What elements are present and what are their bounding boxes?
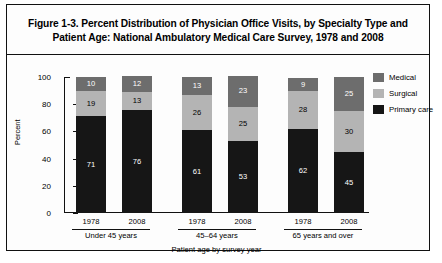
stacked-bar[interactable]: 25 30 45 [334,77,364,213]
stacked-bar[interactable]: 12 13 76 [122,76,152,213]
bar-segment-primary: 61 [182,130,212,213]
x-axis-labels: 1978 2008 1978 2008 1978 2008 Under 45 y… [64,215,369,263]
bar-segment-medical: 10 [76,77,106,91]
bar-segment-primary: 71 [76,116,106,213]
legend-item-primary-care[interactable]: Primary care [373,105,442,114]
bar-segment-primary: 53 [228,141,258,213]
y-tick-label-60: 60 [42,127,51,136]
y-tick-label-40: 40 [42,154,51,163]
legend-item-medical[interactable]: Medical [373,73,442,82]
stacked-bar[interactable]: 23 25 53 [228,76,258,213]
chart-plot-area: Percent 100 80 60 40 20 0 10 19 71 12 [7,55,429,250]
bar-segment-surgical: 19 [76,91,106,117]
group-label: Under 45 years [72,231,150,240]
figure-title-block: Figure 1-3. Percent Distribution of Phys… [7,5,429,55]
bar-segment-medical: 12 [122,76,152,92]
y-tick-label-0: 0 [47,209,51,218]
x-tick-label-year: 1978 [176,217,218,226]
legend-swatch-surgical-icon [373,89,384,98]
legend-label-surgical: Surgical [389,89,417,98]
bar-segment-medical: 23 [228,76,258,107]
group-label: 45–64 years [178,231,256,240]
stacked-bar[interactable]: 9 28 62 [288,78,318,213]
x-axis-title: Patient age by survey year [64,245,369,254]
stacked-bar[interactable]: 13 26 61 [182,77,212,213]
bar-segment-surgical: 25 [228,107,258,141]
bar-segment-medical: 9 [288,78,318,90]
x-tick-label-year: 2008 [328,217,370,226]
legend-label-primary-care: Primary care [389,105,433,114]
bars-layer: 10 19 71 12 13 76 13 26 61 23 25 53 9 [64,77,369,213]
bar-segment-medical: 13 [182,77,212,95]
x-tick-label-year: 2008 [116,217,158,226]
chart-legend: Medical Surgical Primary care [373,73,442,121]
figure-container: Figure 1-3. Percent Distribution of Phys… [6,4,430,251]
page-title: Figure 1-3. Percent Distribution of Phys… [17,17,419,44]
bar-segment-primary: 76 [122,110,152,213]
bar-segment-surgical: 28 [288,91,318,129]
legend-swatch-medical-icon [373,73,384,82]
legend-label-medical: Medical [389,73,416,82]
group-rule [284,229,362,230]
bar-segment-surgical: 26 [182,95,212,130]
bar-segment-medical: 25 [334,77,364,111]
group-rule [178,229,256,230]
legend-swatch-primary-care-icon [373,105,384,114]
y-tick-label-100: 100 [38,73,51,82]
y-tick-label-20: 20 [42,181,51,190]
x-tick-label-year: 1978 [70,217,112,226]
y-axis-ticks: 100 80 60 40 20 0 [21,55,57,250]
group-label: 65 years and over [284,231,362,240]
bar-segment-primary: 45 [334,152,364,213]
bar-segment-primary: 62 [288,129,318,213]
legend-item-surgical[interactable]: Surgical [373,89,442,98]
bar-segment-surgical: 30 [334,111,364,152]
x-tick-label-year: 1978 [282,217,324,226]
y-tick-label-80: 80 [42,100,51,109]
stacked-bar[interactable]: 10 19 71 [76,77,106,213]
bar-segment-surgical: 13 [122,92,152,110]
x-tick-label-year: 2008 [222,217,264,226]
group-rule [72,229,150,230]
